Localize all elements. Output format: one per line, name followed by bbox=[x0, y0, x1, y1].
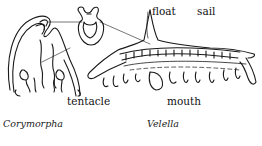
label-tentacle: tentacle bbox=[67, 96, 110, 107]
caption-corymorpha: Corymorpha bbox=[3, 119, 63, 129]
label-mouth: mouth bbox=[167, 96, 201, 107]
velella-figure bbox=[88, 10, 256, 90]
caption-velella: Velella bbox=[147, 119, 179, 129]
float-figure bbox=[78, 7, 104, 45]
label-float: float bbox=[152, 6, 176, 17]
label-sail: sail bbox=[197, 6, 215, 17]
corymorpha-figure bbox=[8, 16, 80, 96]
